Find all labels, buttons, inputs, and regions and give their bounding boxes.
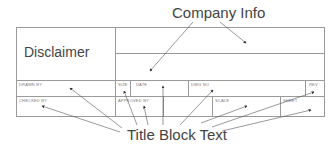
scale-label: SCALE (215, 98, 229, 103)
company-info-divider (115, 53, 324, 54)
date-label: DATE (136, 82, 147, 87)
dwg-no-label: DWG NO (191, 82, 209, 87)
company-info-callout: Company Info (172, 4, 265, 21)
border-top (16, 27, 324, 28)
disclaimer-label: Disclaimer (24, 44, 89, 60)
border-bottom (16, 116, 324, 117)
blank-scale-divider (212, 96, 213, 116)
upper-lower-divider (16, 80, 324, 81)
approved-by-label: APPROVED BY (118, 98, 149, 103)
border-left (16, 27, 17, 117)
arrow-sheet (222, 110, 311, 131)
sheet-label: SHEET (283, 98, 297, 103)
scale-sheet-divider (280, 96, 281, 116)
arrow-company-upper (220, 22, 246, 43)
arrow-scale (201, 106, 247, 123)
checked-by-label: CHECKED BY (19, 98, 47, 103)
row-divider (16, 96, 324, 97)
rev-label: REV (309, 82, 318, 87)
size-label: SIZE (118, 82, 128, 87)
disclaimer-divider (115, 27, 116, 117)
border-right (324, 27, 325, 117)
date-dwg-divider (188, 80, 189, 96)
arrow-checked-by (42, 106, 120, 132)
size-date-divider (130, 80, 131, 96)
drawn-by-label: DRAWN BY (19, 82, 42, 87)
dwg-rev-divider (305, 80, 306, 96)
arrow-company-lower (150, 22, 193, 71)
title-block-text-callout: Title Block Text (127, 126, 227, 143)
approved-blank-divider (163, 96, 164, 116)
